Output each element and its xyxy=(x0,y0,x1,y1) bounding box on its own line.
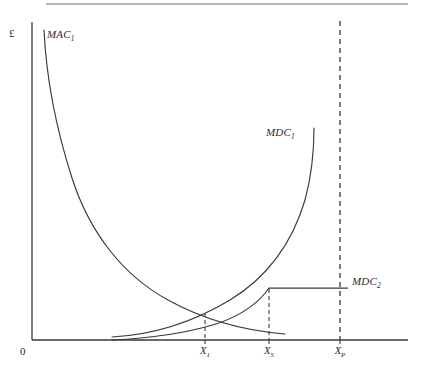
mdc2-rising-curve xyxy=(112,288,269,340)
mdc1-label-text: MDC xyxy=(266,126,291,138)
xp-tick-subscript: P xyxy=(341,351,345,359)
mdc1-label-subscript: 1 xyxy=(291,132,295,141)
x-tick-label-x1: X1 xyxy=(200,345,210,359)
mdc1-curve xyxy=(112,128,314,337)
x-tick-label-xp: XP xyxy=(335,345,346,359)
y-axis-label: £ xyxy=(9,27,15,39)
x-tick-label-xs: XS xyxy=(264,345,274,359)
mdc2-label-subscript: 2 xyxy=(377,281,381,290)
mac1-label-subscript: 1 xyxy=(71,34,75,43)
origin-label: 0 xyxy=(20,345,26,357)
plot-canvas xyxy=(0,0,422,373)
mdc1-curve-label: MDC1 xyxy=(266,126,295,141)
mac1-curve-label: MAC1 xyxy=(47,28,75,43)
mdc2-label-text: MDC xyxy=(352,275,377,287)
mac1-curve xyxy=(44,30,285,334)
x1-tick-subscript: 1 xyxy=(206,351,210,359)
mac1-label-text: MAC xyxy=(47,28,71,40)
xs-tick-subscript: S xyxy=(270,351,274,359)
mdc2-curve-label: MDC2 xyxy=(352,275,381,290)
economics-diagram: £ 0 MAC1 MDC1 MDC2 X1 XS XP xyxy=(0,0,422,373)
